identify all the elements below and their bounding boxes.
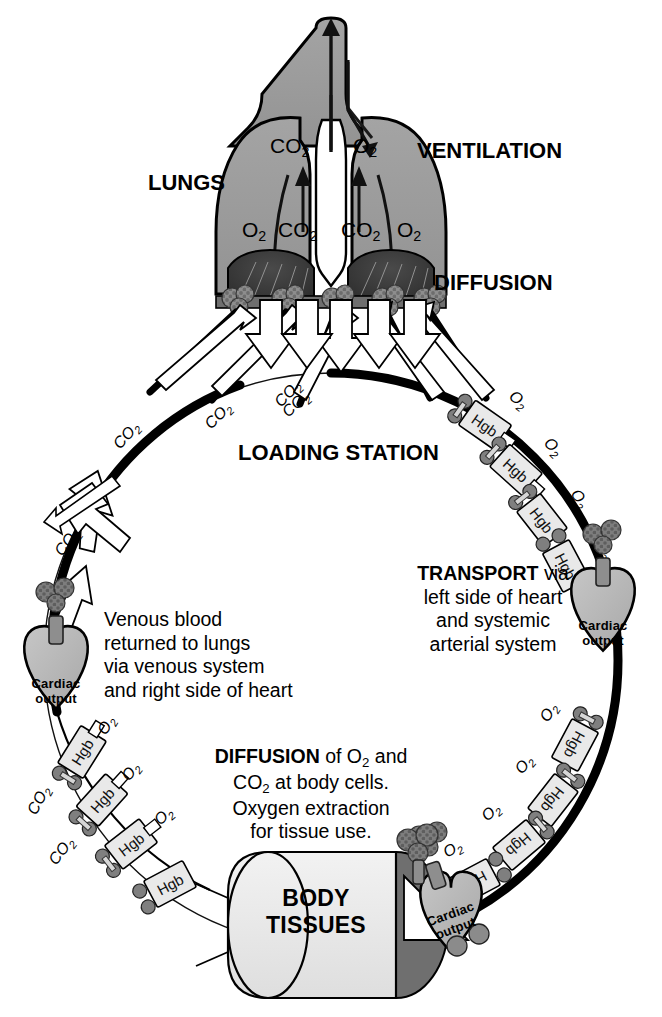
hgb-chain-left: Hgb Hgb Hgb bbox=[24, 713, 198, 916]
heading-loading-station: LOADING STATION bbox=[238, 440, 439, 466]
heart-label-line-1: Cardiac bbox=[17, 676, 95, 691]
heading-diffusion-top: DIFFUSION bbox=[434, 270, 553, 296]
gas-formula: CO bbox=[278, 218, 310, 241]
svg-text:O2: O2 bbox=[511, 752, 538, 779]
diffusion-line1-rest: of O bbox=[320, 745, 362, 767]
svg-text:O2: O2 bbox=[440, 837, 466, 864]
diffusion-line-3: Oxygen extraction bbox=[196, 797, 426, 821]
venous-line-2: returned to lungs bbox=[104, 632, 336, 656]
venous-line-1: Venous blood bbox=[104, 608, 336, 632]
diffusion-line-4: for tissue use. bbox=[196, 820, 426, 844]
diagram-canvas: CO2 CO2 CO2 CO2 CO2 Hgb Hgb bbox=[0, 0, 662, 1017]
diffusion-bold-lead: DIFFUSION bbox=[215, 745, 320, 767]
svg-text:O2: O2 bbox=[478, 799, 505, 826]
gas-formula: CO bbox=[341, 218, 373, 241]
heart-label-right: Cardiac output bbox=[564, 618, 642, 649]
label-body-tissues: BODY TISSUES bbox=[256, 885, 376, 939]
venous-line-4: and right side of heart bbox=[104, 679, 336, 703]
diffusion-line-1: DIFFUSION of O2 and bbox=[196, 745, 426, 771]
lung-gas-lower-right: CO2 bbox=[341, 218, 380, 245]
lung-gas-lower-far-right: O2 bbox=[397, 218, 421, 245]
transport-line-4: arterial system bbox=[398, 633, 588, 657]
lung-gas-lower-left: CO2 bbox=[278, 218, 317, 245]
svg-text:CO2: CO2 bbox=[24, 783, 56, 819]
gas-subscript: 2 bbox=[413, 228, 421, 244]
venous-line-3: via venous system bbox=[104, 655, 336, 679]
diffusion-line-2: CO2 at body cells. bbox=[196, 771, 426, 797]
gas-formula: O bbox=[242, 218, 258, 241]
svg-text:O2: O2 bbox=[536, 700, 563, 726]
lung-gas-lower-far-left: O2 bbox=[242, 218, 266, 245]
lung-gas-upper-left: CO2 bbox=[270, 134, 309, 161]
gas-subscript: 2 bbox=[302, 144, 310, 160]
svg-text:CO2: CO2 bbox=[45, 834, 79, 870]
diffusion-line1-tail: and bbox=[369, 745, 407, 767]
heart-label-line-2: output bbox=[17, 691, 95, 706]
body-tissues-line-1: BODY bbox=[256, 885, 376, 912]
gas-subscript: 2 bbox=[310, 228, 318, 244]
heart-label-line-1: Cardiac bbox=[564, 618, 642, 633]
lungs-illustration bbox=[216, 18, 446, 316]
gas-subscript: 2 bbox=[369, 144, 377, 160]
heading-lungs: LUNGS bbox=[148, 170, 225, 196]
heart-label-line-2: output bbox=[564, 633, 642, 648]
transport-text-block: TRANSPORT via left side of heart and sys… bbox=[398, 562, 588, 656]
diffusion-body-text-block: DIFFUSION of O2 and CO2 at body cells. O… bbox=[196, 745, 426, 844]
diffusion-line2-head: CO bbox=[233, 771, 262, 793]
transport-line-1: TRANSPORT via bbox=[398, 562, 588, 586]
body-tissues-line-2: TISSUES bbox=[256, 912, 376, 939]
oxygen-transport-illustration: CO2 CO2 CO2 CO2 CO2 Hgb Hgb bbox=[0, 0, 662, 1017]
gas-subscript: 2 bbox=[373, 228, 381, 244]
svg-text:O2: O2 bbox=[504, 387, 531, 414]
diffusion-line2-sub: 2 bbox=[262, 780, 269, 795]
venous-text-block: Venous blood returned to lungs via venou… bbox=[104, 608, 336, 702]
transport-bold-lead: TRANSPORT bbox=[417, 562, 538, 584]
lung-gas-upper-right: O2 bbox=[353, 134, 377, 161]
gas-formula: O bbox=[353, 134, 369, 157]
heart-label-left: Cardiac output bbox=[17, 676, 95, 707]
gas-formula: CO bbox=[270, 134, 302, 157]
transport-line-3: and systemic bbox=[398, 609, 588, 633]
heading-ventilation: VENTILATION bbox=[417, 138, 562, 164]
transport-line1-rest: via bbox=[538, 562, 568, 584]
diffusion-line2-tail: at body cells. bbox=[270, 771, 389, 793]
svg-text:O2: O2 bbox=[539, 434, 566, 461]
gas-formula: O bbox=[397, 218, 413, 241]
gas-subscript: 2 bbox=[258, 228, 266, 244]
transport-line-2: left side of heart bbox=[398, 586, 588, 610]
